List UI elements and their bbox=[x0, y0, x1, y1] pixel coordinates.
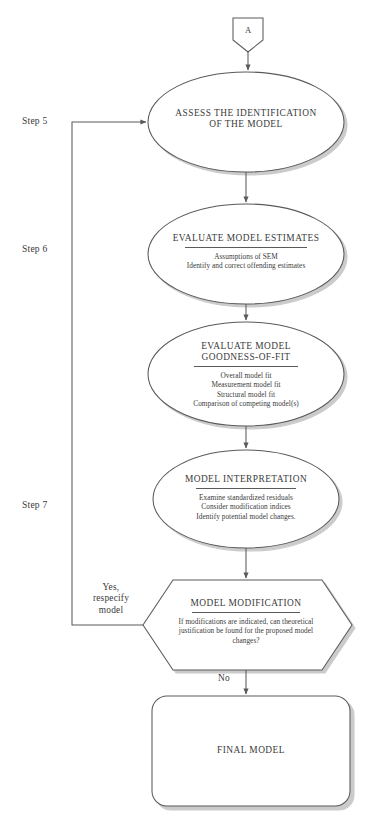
node-shape-final-model bbox=[152, 696, 350, 806]
step-label-step6: Step 6 bbox=[22, 243, 47, 254]
step-label-step5: Step 5 bbox=[22, 115, 47, 126]
flowchart-canvas: A Step 5 Step 6 Step 7 ASSESS THE IDENTI… bbox=[0, 0, 366, 820]
edge-label-feedback-line: Yes, bbox=[78, 582, 144, 593]
connector-A-label: A bbox=[233, 25, 263, 35]
step-label-step7: Step 7 bbox=[22, 499, 47, 510]
edge-label-no: No bbox=[209, 673, 239, 684]
edge-label-feedback-line: respecify bbox=[78, 593, 144, 604]
flowchart-vector-layer bbox=[0, 0, 366, 820]
edge-feedback-loop bbox=[72, 122, 146, 625]
node-shape-model-interpretation bbox=[153, 450, 339, 548]
node-shape-model-modification bbox=[143, 580, 352, 670]
connector-A-shape bbox=[233, 18, 263, 52]
edge-label-feedback-line: model bbox=[78, 605, 144, 616]
node-shape-evaluate-model-estimates bbox=[148, 204, 344, 304]
edge-label-feedback: Yes, respecify model bbox=[78, 582, 144, 616]
node-shape-assess-identification bbox=[148, 72, 344, 172]
node-shape-evaluate-goodness-of-fit bbox=[148, 322, 344, 426]
